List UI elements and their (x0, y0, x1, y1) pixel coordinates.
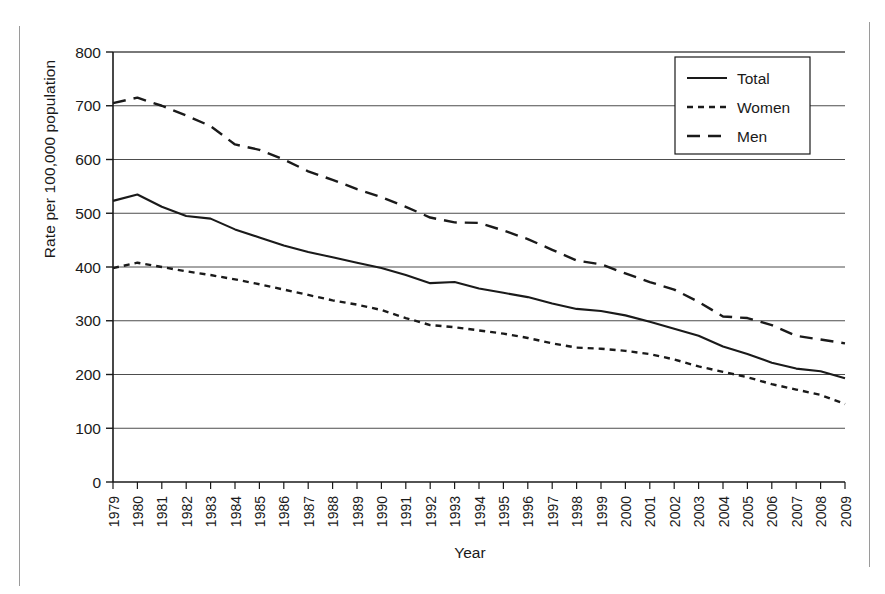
x-axis-tick-label: 1981 (154, 496, 170, 527)
x-axis-title: Year (380, 544, 560, 562)
page-bottom-text (30, 578, 850, 594)
x-axis-tick-label: 2002 (667, 496, 683, 527)
x-axis-tick-label: 1997 (545, 496, 561, 527)
x-axis-tick-label: 1983 (203, 496, 219, 527)
x-axis-tick-label: 1991 (398, 496, 414, 527)
legend-label-women: Women (737, 99, 790, 116)
line-chart: 0100200300400500600700800 19791980198119… (0, 0, 885, 594)
series-line-women (113, 263, 845, 404)
x-axis-tick-label: 1986 (276, 496, 292, 527)
y-axis-tick-group: 0100200300400500600700800 (75, 44, 113, 491)
x-axis-tick-label: 2008 (813, 496, 829, 527)
x-axis-tick-label: 1998 (569, 496, 585, 527)
y-axis-tick-label: 100 (75, 420, 101, 437)
x-axis-tick-label: 2005 (740, 496, 756, 527)
x-axis-tick-label: 1984 (228, 496, 244, 527)
x-axis-tick-label: 2006 (764, 496, 780, 527)
x-axis-tick-label: 1994 (472, 496, 488, 527)
x-axis-tick-label: 2009 (838, 496, 854, 527)
x-axis-tick-label: 1993 (447, 496, 463, 527)
y-axis-tick-label: 400 (75, 259, 101, 276)
x-axis-tick-label: 1982 (179, 496, 195, 527)
y-axis-tick-label: 200 (75, 366, 101, 383)
x-axis-tick-label: 1992 (423, 496, 439, 527)
legend-label-men: Men (737, 128, 767, 145)
x-axis-tick-label: 2004 (716, 496, 732, 527)
x-axis-tick-label: 1987 (301, 496, 317, 527)
y-axis-tick-label: 300 (75, 312, 101, 329)
y-axis-tick-label: 700 (75, 97, 101, 114)
chart-legend: TotalWomenMen (675, 57, 810, 154)
x-axis-tick-label: 2003 (691, 496, 707, 527)
x-axis-tick-label: 1985 (252, 496, 268, 527)
x-axis-tick-label: 1980 (130, 496, 146, 527)
y-axis-title: Rate per 100,000 population (41, 29, 59, 289)
x-axis-tick-label: 1995 (496, 496, 512, 527)
x-axis-tick-label: 2001 (642, 496, 658, 527)
x-axis-tick-label: 1989 (350, 496, 366, 527)
x-axis-tick-label: 1999 (594, 496, 610, 527)
y-axis-tick-label: 0 (92, 474, 101, 491)
y-axis-tick-label: 500 (75, 205, 101, 222)
series-line-total (113, 194, 845, 378)
y-axis-tick-label: 600 (75, 151, 101, 168)
y-axis-tick-label: 800 (75, 44, 101, 61)
x-axis-tick-label: 2007 (789, 496, 805, 527)
x-axis-tick-label: 1988 (325, 496, 341, 527)
x-axis-tick-label: 1996 (520, 496, 536, 527)
figure-container: 0100200300400500600700800 19791980198119… (0, 0, 885, 594)
x-axis-tick-group: 1979198019811982198319841985198619871988… (106, 482, 854, 527)
x-axis-tick-label: 1990 (374, 496, 390, 527)
x-axis-tick-label: 2000 (618, 496, 634, 527)
legend-label-total: Total (737, 70, 770, 87)
x-axis-tick-label: 1979 (106, 496, 122, 527)
